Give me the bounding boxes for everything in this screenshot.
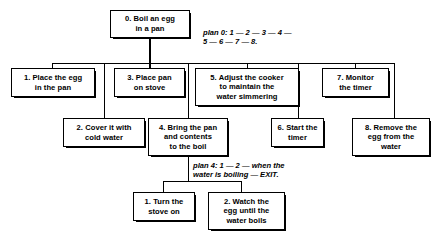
- plan-0-annotation: plan 0: 1 — 2 — 3 — 4 — 5 — 6 — 7 — 8.: [203, 28, 292, 47]
- connector-root-stem: [149, 38, 150, 63]
- connector-task4-stem: [188, 156, 189, 181]
- node-4-bring-the-pan-to-the-boil[interactable]: 4. Bring the pan and contents to the boi…: [148, 118, 228, 156]
- node-4-label: 4. Bring the pan and contents to the boi…: [159, 123, 217, 152]
- node-4-1-label: 1. Turn the stove on: [145, 197, 184, 216]
- node-0-boil-an-egg[interactable]: 0. Boil an egg in a pan: [110, 10, 190, 38]
- node-2-cover-it-with-cold-water[interactable]: 2. Cover it with cold water: [63, 118, 145, 147]
- node-4-2-watch-the-egg[interactable]: 2. Watch the egg until the water boils: [208, 192, 285, 230]
- node-8-label: 8. Remove the egg from the water: [365, 123, 417, 152]
- node-5-adjust-the-cooker[interactable]: 5. Adjust the cooker to maintain the wat…: [195, 68, 299, 106]
- node-5-label: 5. Adjust the cooker to maintain the wat…: [210, 73, 283, 102]
- node-3-place-pan-on-stove[interactable]: 3. Place pan on stove: [114, 68, 185, 97]
- node-7-monitor-the-timer[interactable]: 7. Monitor the timer: [322, 68, 389, 97]
- connector-level2-bus: [163, 181, 242, 182]
- connector-drop-task8: [394, 63, 395, 119]
- connector-drop-task4-2: [241, 181, 242, 193]
- node-6-start-the-timer[interactable]: 6. Start the timer: [271, 118, 324, 147]
- node-4-2-label: 2. Watch the egg until the water boils: [224, 197, 270, 226]
- connector-drop-task4-1: [163, 181, 164, 193]
- hta-diagram-canvas: 0. Boil an egg in a pan 1. Place the egg…: [0, 0, 440, 241]
- connector-drop-task4: [188, 63, 189, 119]
- node-4-1-turn-the-stove-on[interactable]: 1. Turn the stove on: [133, 192, 195, 221]
- node-1-place-the-egg[interactable]: 1. Place the egg in the pan: [11, 68, 95, 97]
- node-7-label: 7. Monitor the timer: [337, 73, 374, 92]
- node-6-label: 6. Start the timer: [278, 123, 318, 142]
- node-2-label: 2. Cover it with cold water: [77, 123, 132, 142]
- node-0-label: 0. Boil an egg in a pan: [125, 14, 175, 33]
- node-1-label: 1. Place the egg in the pan: [24, 73, 82, 92]
- connector-drop-task2: [104, 63, 105, 119]
- plan-4-annotation: plan 4: 1 — 2 — when the water is boilin…: [193, 161, 285, 180]
- node-8-remove-the-egg[interactable]: 8. Remove the egg from the water: [352, 118, 430, 156]
- node-3-label: 3. Place pan on stove: [127, 73, 172, 92]
